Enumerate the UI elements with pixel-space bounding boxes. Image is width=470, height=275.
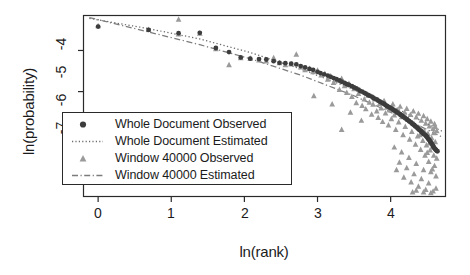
legend-label-3: Window 40000 Estimated <box>115 167 255 184</box>
legend-row-window-observed: Window 40000 Observed <box>63 150 293 167</box>
filled-triangle-icon <box>69 150 113 167</box>
legend-row-whole-document-observed: Whole Document Observed <box>63 116 293 133</box>
x-axis-title: ln(rank) <box>83 243 445 260</box>
xtick-label-4: 4 <box>379 205 403 221</box>
xtick-label-0: 0 <box>86 205 110 221</box>
dashdot-line-icon <box>69 167 113 184</box>
chart-figure: -4 -5 -6 -7 0 1 2 3 4 ln(probability) ln… <box>0 0 470 275</box>
legend-row-whole-document-estimated: Whole Document Estimated <box>63 133 293 150</box>
xtick-label-3: 3 <box>306 205 330 221</box>
chart-legend: Whole Document Observed Whole Document E… <box>62 112 292 185</box>
legend-label-0: Whole Document Observed <box>115 116 266 133</box>
legend-label-1: Whole Document Estimated <box>115 133 268 150</box>
xtick-label-2: 2 <box>233 205 257 221</box>
legend-label-2: Window 40000 Observed <box>115 150 253 167</box>
xtick-label-1: 1 <box>159 205 183 221</box>
filled-circle-icon <box>69 116 113 133</box>
legend-row-window-estimated: Window 40000 Estimated <box>63 167 293 184</box>
dotted-line-icon <box>69 133 113 150</box>
y-axis-title: ln(probability) <box>20 22 37 202</box>
